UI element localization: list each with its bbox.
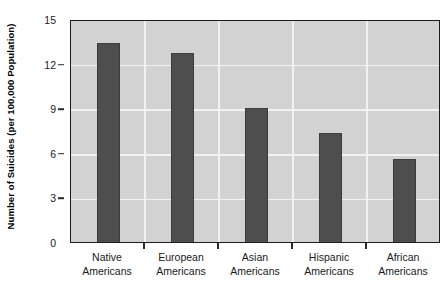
- y-axis-tick-label: 12: [44, 59, 56, 71]
- x-axis-tick-mark: [143, 243, 145, 249]
- y-axis-tick-mark: [58, 153, 64, 155]
- y-axis-tick-label: 6: [50, 148, 56, 160]
- gridline-vertical: [366, 21, 368, 242]
- x-axis-tick-label-line1: Asian: [218, 251, 292, 265]
- x-axis-tick-label: AsianAmericans: [218, 251, 292, 278]
- bar: [171, 53, 194, 242]
- x-axis-tick-label: AfricanAmericans: [366, 251, 440, 278]
- x-axis-tick-mark: [291, 243, 293, 249]
- y-axis-tick-label: 15: [44, 14, 56, 26]
- gridline-vertical: [144, 21, 146, 242]
- x-axis-tick-mark: [365, 243, 367, 249]
- bar: [319, 133, 342, 242]
- x-axis-tick-label: NativeAmericans: [70, 251, 144, 278]
- x-axis-tick-label-line1: Hispanic: [292, 251, 366, 265]
- x-axis-tick-label: EuropeanAmericans: [144, 251, 218, 278]
- x-axis-tick-label-line1: European: [144, 251, 218, 265]
- x-axis-tick-marks: [70, 243, 440, 250]
- x-axis-tick-label-line1: Native: [70, 251, 144, 265]
- plot-inner: [71, 21, 439, 242]
- y-axis-tick-mark: [58, 64, 64, 66]
- x-axis-tick-label-line2: Americans: [218, 265, 292, 279]
- y-axis-title-text: Number of Suicides (per 100,000 Populati…: [6, 24, 17, 230]
- x-axis-tick-label-line2: Americans: [144, 265, 218, 279]
- bar-chart-figure: Number of Suicides (per 100,000 Populati…: [0, 0, 448, 294]
- gridline-horizontal: [71, 65, 439, 67]
- y-axis-tick-mark: [58, 108, 64, 110]
- x-axis-tick-label: HispanicAmericans: [292, 251, 366, 278]
- x-axis-tick-label-line1: African: [366, 251, 440, 265]
- x-axis-tick-label-line2: Americans: [292, 265, 366, 279]
- y-axis-tick-mark: [58, 198, 64, 200]
- y-axis-tick-label: 0: [50, 237, 56, 249]
- gridline-vertical: [292, 21, 294, 242]
- plot-area: [70, 20, 440, 243]
- y-axis-title: Number of Suicides (per 100,000 Populati…: [0, 0, 22, 253]
- bar: [393, 159, 416, 242]
- x-axis-tick-labels: NativeAmericansEuropeanAmericansAsianAme…: [70, 251, 440, 291]
- gridline-vertical: [218, 21, 220, 242]
- x-axis-tick-label-line2: Americans: [70, 265, 144, 279]
- y-axis-tick-label: 3: [50, 192, 56, 204]
- x-axis-tick-label-line2: Americans: [366, 265, 440, 279]
- y-axis-tick-labels: 03691215: [26, 0, 64, 294]
- bar: [245, 108, 268, 242]
- bar: [97, 43, 120, 242]
- y-axis-tick-label: 9: [50, 103, 56, 115]
- x-axis-tick-mark: [217, 243, 219, 249]
